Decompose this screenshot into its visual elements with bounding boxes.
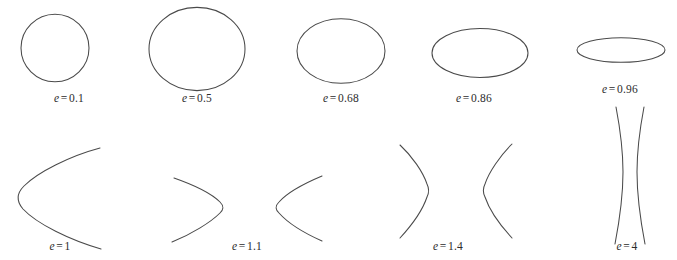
eccentricity-value: 1.1 <box>247 240 262 252</box>
equals-sign: = <box>55 240 65 252</box>
equals-sign: = <box>237 240 247 252</box>
eccentricity-value: 1.4 <box>448 240 463 252</box>
conic-curves-canvas <box>0 0 677 260</box>
label-e-1-1: e=1.1 <box>232 240 262 252</box>
hyperbola-e-1-1-right-branch <box>276 176 322 241</box>
equals-sign: = <box>187 92 197 104</box>
hyperbola-e-1-4-left-branch <box>400 145 429 238</box>
conic-sections-figure: e=0.1 e=0.5 e=0.68 e=0.86 e=0.96 e=1 e=1… <box>0 0 677 260</box>
label-e-1: e=1 <box>50 240 71 252</box>
equals-sign: = <box>622 240 632 252</box>
equals-sign: = <box>461 92 471 104</box>
eccentricity-value: 4 <box>632 240 638 252</box>
equals-sign: = <box>438 240 448 252</box>
equals-sign: = <box>328 92 338 104</box>
eccentricity-value: 0.68 <box>338 92 359 104</box>
label-e-0-1: e=0.1 <box>54 92 84 104</box>
eccentricity-value: 0.1 <box>69 92 84 104</box>
ellipse-e-0-5 <box>149 7 245 90</box>
equals-sign: = <box>607 83 617 95</box>
ellipse-e-0-1 <box>21 14 89 82</box>
label-e-0-5: e=0.5 <box>182 92 212 104</box>
ellipse-e-0-86 <box>432 29 528 78</box>
hyperbola-e-1-1-left-branch <box>172 178 223 242</box>
label-e-4: e=4 <box>617 240 638 252</box>
hyperbola-e-1-4-right-branch <box>484 144 513 238</box>
hyperbola-e-4-right-branch <box>637 107 645 244</box>
parabola-e-1 <box>18 148 101 249</box>
eccentricity-value: 0.86 <box>471 92 492 104</box>
eccentricity-value: 0.5 <box>197 92 212 104</box>
label-e-0-96: e=0.96 <box>602 83 638 95</box>
label-e-0-68: e=0.68 <box>323 92 359 104</box>
hyperbola-e-4-left-branch <box>615 107 623 244</box>
eccentricity-value: 1 <box>65 240 71 252</box>
ellipse-e-0-96 <box>577 38 665 63</box>
equals-sign: = <box>59 92 69 104</box>
label-e-0-86: e=0.86 <box>456 92 492 104</box>
eccentricity-value: 0.96 <box>617 83 638 95</box>
label-e-1-4: e=1.4 <box>433 240 463 252</box>
ellipse-e-0-68 <box>297 19 385 84</box>
